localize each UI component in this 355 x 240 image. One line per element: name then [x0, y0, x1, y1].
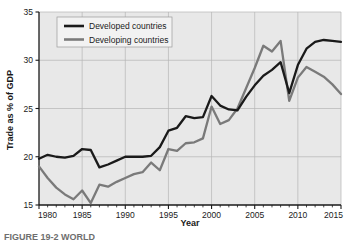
x-tick-label: 1980	[38, 210, 57, 220]
chart-legend: Developed countriesDeveloping countries	[57, 17, 172, 47]
figure-caption: FIGURE 19-2 WORLD	[4, 232, 95, 240]
y-tick-label: 20	[24, 152, 34, 162]
legend-item-label: Developing countries	[89, 35, 168, 45]
x-tick-label: 2005	[245, 210, 264, 220]
y-tick-label: 30	[24, 55, 34, 65]
x-tick-label: 1990	[116, 210, 135, 220]
x-tick-label: 2010	[288, 210, 307, 220]
x-tick-label: 1985	[73, 210, 92, 220]
y-tick-label: 15	[24, 200, 34, 210]
x-axis-title: Year	[180, 218, 200, 228]
y-axis-title: Trade as % of GDP	[5, 70, 15, 150]
trade-gdp-line-chart: 1520253035 19801985199019952000200520102…	[0, 0, 355, 240]
y-tick-label: 25	[24, 104, 34, 114]
legend-item-label: Developed countries	[89, 21, 167, 31]
figure-container: 1520253035 19801985199019952000200520102…	[0, 0, 355, 240]
x-tick-label: 2000	[202, 210, 221, 220]
y-tick-label: 35	[24, 7, 34, 17]
x-tick-label: 1995	[159, 210, 178, 220]
x-tick-label: 2015	[324, 210, 343, 220]
